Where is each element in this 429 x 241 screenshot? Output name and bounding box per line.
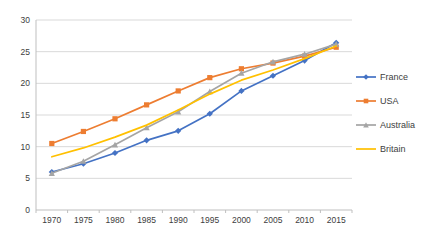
point-marker-diamond xyxy=(112,150,118,156)
point-marker-square xyxy=(81,129,86,134)
legend-label: France xyxy=(380,72,408,82)
x-tick-label: 1980 xyxy=(106,215,125,225)
point-marker-square xyxy=(112,116,117,121)
point-marker-diamond xyxy=(144,137,150,143)
y-tick-label: 20 xyxy=(21,78,31,88)
x-tick-label: 1975 xyxy=(74,215,93,225)
x-tick-label: 2005 xyxy=(264,215,283,225)
y-axis-labels: 051015202530 xyxy=(21,15,31,215)
legend-item-australia: Australia xyxy=(356,120,415,130)
chart-svg: 0510152025301970197519801985199019952000… xyxy=(0,0,429,241)
point-marker-square xyxy=(176,88,181,93)
series-usa xyxy=(49,45,339,146)
legend-label: Britain xyxy=(380,144,406,154)
line-chart: 0510152025301970197519801985199019952000… xyxy=(0,0,429,241)
series-line-britain xyxy=(52,46,336,157)
axes xyxy=(36,20,352,213)
y-tick-label: 25 xyxy=(21,47,31,57)
x-tick-label: 2010 xyxy=(295,215,314,225)
x-tick-label: 2000 xyxy=(232,215,251,225)
legend: FranceUSAAustraliaBritain xyxy=(356,72,415,154)
point-marker-diamond xyxy=(270,73,276,79)
legend-label: USA xyxy=(380,96,399,106)
point-marker-diamond xyxy=(175,128,181,134)
legend-item-france: France xyxy=(356,72,408,82)
series-line-usa xyxy=(52,47,336,143)
gridlines xyxy=(36,20,352,178)
y-tick-label: 15 xyxy=(21,110,31,120)
y-tick-label: 30 xyxy=(21,15,31,25)
x-tick-label: 1995 xyxy=(200,215,219,225)
legend-item-britain: Britain xyxy=(356,144,406,154)
legend-label: Australia xyxy=(380,120,415,130)
point-marker-diamond xyxy=(363,74,369,80)
point-marker-square xyxy=(144,102,149,107)
y-tick-label: 10 xyxy=(21,142,31,152)
point-marker-square xyxy=(207,75,212,80)
x-tick-label: 1970 xyxy=(42,215,61,225)
x-tick-label: 1985 xyxy=(137,215,156,225)
series-britain xyxy=(52,46,336,157)
x-axis-labels: 1970197519801985199019952000200520102015 xyxy=(42,215,346,225)
point-marker-square xyxy=(364,99,369,104)
legend-item-usa: USA xyxy=(356,96,399,106)
x-tick-label: 1990 xyxy=(169,215,188,225)
series-france xyxy=(49,40,340,175)
y-tick-label: 0 xyxy=(25,205,30,215)
x-tick-label: 2015 xyxy=(327,215,346,225)
point-marker-square xyxy=(49,141,54,146)
y-tick-label: 5 xyxy=(25,173,30,183)
